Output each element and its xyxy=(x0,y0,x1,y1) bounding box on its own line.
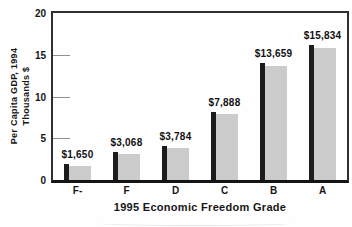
bar-D xyxy=(167,148,189,180)
bar-value-label-F: $3,068 xyxy=(111,137,143,148)
y-axis-title-line1: Per Capita GDP, 1994 xyxy=(8,48,20,144)
y-axis-tick-label-20: 20 xyxy=(26,8,46,19)
bar-value-label-C: $7,888 xyxy=(209,97,241,108)
scan-artifact-line xyxy=(100,221,290,226)
x-axis-tick-label-F-: F- xyxy=(73,185,82,196)
bar-F- xyxy=(69,166,91,180)
y-axis-tick-label-10: 10 xyxy=(26,91,46,102)
bar-value-label-A: $15,834 xyxy=(304,30,342,41)
bar-A xyxy=(314,48,336,180)
bar-value-label-D: $3,784 xyxy=(160,131,192,142)
bar-B xyxy=(265,66,287,180)
bar-value-label-F-: $1,650 xyxy=(62,149,94,160)
x-axis-tick-label-B: B xyxy=(270,185,277,196)
x-axis-tick-label-A: A xyxy=(319,185,326,196)
x-axis-title: 1995 Economic Freedom Grade xyxy=(114,201,287,213)
x-axis-tick-label-F: F xyxy=(123,185,129,196)
bar-chart-figure: Per Capita GDP, 1994 Thousands $ 1995 Ec… xyxy=(0,0,352,227)
y-axis-tick-mark-15 xyxy=(53,55,70,56)
bar-value-label-B: $13,659 xyxy=(255,48,293,59)
y-axis-tick-label-5: 5 xyxy=(26,133,46,144)
bar-F xyxy=(118,154,140,180)
x-axis-tick-label-D: D xyxy=(172,185,179,196)
y-axis-tick-label-0: 0 xyxy=(26,175,46,186)
x-axis-tick-label-C: C xyxy=(221,185,228,196)
y-axis-tick-label-15: 15 xyxy=(26,49,46,60)
y-axis-tick-mark-5 xyxy=(53,138,70,139)
bar-C xyxy=(216,114,238,180)
y-axis-tick-mark-10 xyxy=(53,97,70,98)
